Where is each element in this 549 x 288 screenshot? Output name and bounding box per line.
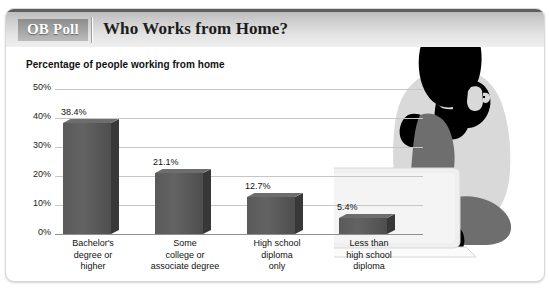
poll-header: OB Poll Who Works from Home? [6,9,544,47]
figure-shirt [435,101,471,140]
bar-chart: 50%40%30%20%10%0% 38.4%21.1%12.7%5.4% [23,89,423,234]
brand-badge: OB Poll [18,19,88,41]
x-axis-labels: Bachelor'sdegree orhigherSomecollege ora… [55,238,423,282]
x-axis-category-label: Bachelor'sdegree orhigher [50,238,136,273]
bar-value-label: 38.4% [61,107,131,117]
bar-side-face [111,119,119,234]
bar-value-label: 21.1% [153,157,223,167]
y-axis-tick-label: 20% [23,169,51,179]
bar-top-face [339,214,395,218]
x-axis-label-line: only [234,261,320,273]
bar-value-label: 12.7% [245,181,315,191]
bar-side-face [295,193,303,234]
bar-value-label: 5.4% [337,202,407,212]
page-title: Who Works from Home? [103,19,288,39]
bar-top-face [247,193,303,197]
x-axis-label-line: Bachelor's [50,238,136,250]
figure-legs [410,114,511,246]
bar-front-face [63,123,111,234]
bar-front-face [339,218,387,234]
mug-handle [483,93,490,103]
x-axis-category-label: Somecollege orassociate degree [142,238,228,273]
header-divider [92,17,93,43]
bar[interactable] [247,197,295,234]
x-axis-label-line: college or [142,250,228,262]
figure-foot [440,224,465,256]
x-axis-category-label: High schooldiplomaonly [234,238,320,273]
bar[interactable] [63,123,111,234]
x-axis-label-line: Some [142,238,228,250]
bar-side-face [203,169,211,234]
bar-front-face [155,173,203,234]
y-axis-tick-label: 50% [23,82,51,92]
poll-card: OB Poll Who Works from Home? [5,8,545,282]
bar-slot: 5.4% [331,89,423,234]
x-axis-label-line: high school [326,250,412,262]
bar[interactable] [155,173,203,234]
axis-baseline [55,234,423,235]
x-axis-label-line: associate degree [142,261,228,273]
coffee-mug [467,86,483,111]
bar-side-face [387,214,395,234]
x-axis-label-line: Less than [326,238,412,250]
x-axis-category-label: Less thanhigh schooldiploma [326,238,412,273]
y-axis-tick-label: 10% [23,198,51,208]
chart-subtitle: Percentage of people working from home [26,59,225,70]
x-axis-label-line: higher [50,261,136,273]
y-axis-tick-label: 40% [23,111,51,121]
figure-forearm [453,80,491,127]
bar-slot: 21.1% [147,89,239,234]
x-axis-label-line: High school [234,238,320,250]
bar-top-face [63,119,119,123]
bar-top-face [155,169,211,173]
bar-slot: 12.7% [239,89,331,234]
bars-group: 38.4%21.1%12.7%5.4% [55,89,423,234]
bar-slot: 38.4% [55,89,147,234]
x-axis-label-line: degree or [50,250,136,262]
y-axis-tick-label: 0% [23,227,51,237]
x-axis-label-line: diploma [326,261,412,273]
bar[interactable] [339,218,387,234]
y-axis-tick-label: 30% [23,140,51,150]
x-axis-label-line: diploma [234,250,320,262]
bar-front-face [247,197,295,234]
